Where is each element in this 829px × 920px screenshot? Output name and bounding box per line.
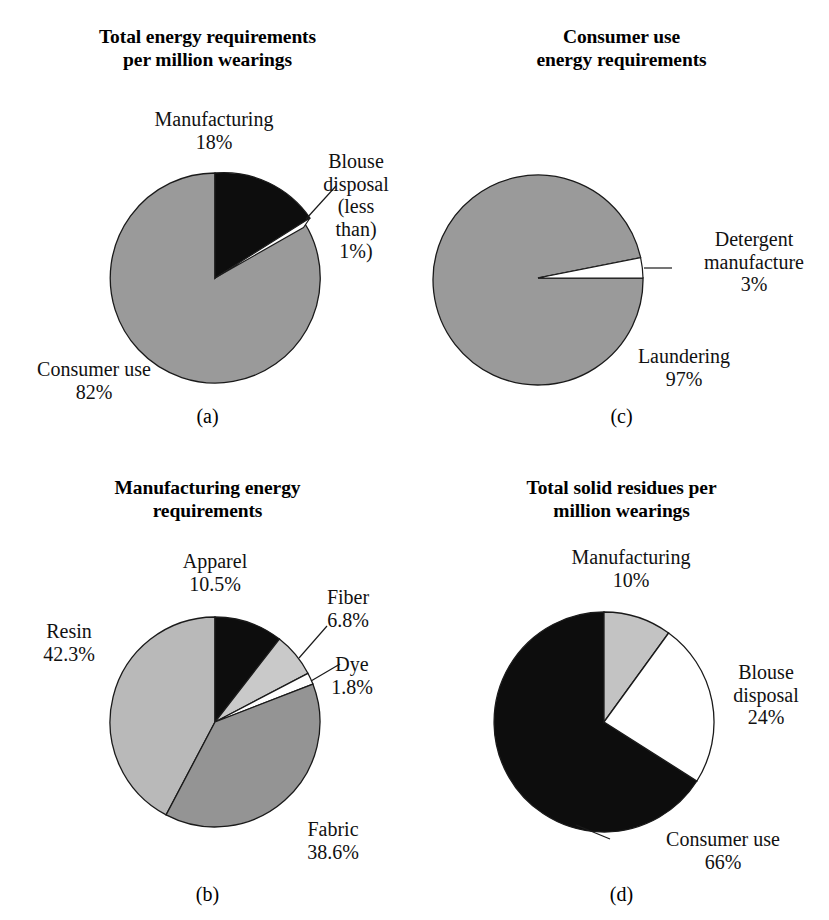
label-consumer-use: Consumer use 82% xyxy=(4,358,184,403)
label-manufacturing: Manufacturing 10% xyxy=(508,546,754,591)
pie-chart-figure: Total energy requirements per million we… xyxy=(0,0,829,920)
label-blouse-disposal: Blouse disposal (less than) 1%) xyxy=(300,150,412,263)
label-consumer-use: Consumer use 66% xyxy=(628,828,818,873)
panel-b: Manufacturing energy requirements Appare… xyxy=(0,458,415,918)
panel-c: Consumer use energy requirements Deterge… xyxy=(414,0,829,460)
label-dye: Dye 1.8% xyxy=(302,653,402,698)
panel-d-caption: (d) xyxy=(414,883,829,905)
label-laundering: Laundering 97% xyxy=(599,345,769,390)
panel-d: Total solid residues per million wearing… xyxy=(414,458,829,918)
label-apparel: Apparel 10.5% xyxy=(120,550,310,595)
label-manufacturing: Manufacturing 18% xyxy=(104,108,324,153)
panel-a-caption: (a) xyxy=(0,405,415,427)
label-fiber: Fiber 6.8% xyxy=(298,586,398,631)
label-blouse-disposal: Blouse disposal 24% xyxy=(704,661,828,729)
label-resin: Resin 42.3% xyxy=(4,620,134,665)
panel-a: Total energy requirements per million we… xyxy=(0,0,415,460)
label-fabric: Fabric 38.6% xyxy=(268,818,398,863)
panel-c-caption: (c) xyxy=(414,405,829,427)
label-detergent-manufacture: Detergent manufacture 3% xyxy=(681,228,827,296)
panel-b-caption: (b) xyxy=(0,883,415,905)
